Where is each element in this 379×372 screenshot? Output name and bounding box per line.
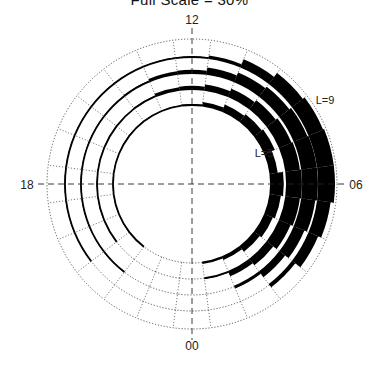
ring-segment-empty: [150, 287, 178, 294]
ring-segment-solid: [114, 194, 119, 214]
ring-segment-empty: [156, 272, 180, 278]
hour-label-bottom: 00: [185, 339, 199, 353]
ring-segment-empty: [178, 294, 207, 295]
ring-segment-solid: [91, 83, 114, 106]
polar-chart: 12 06 00 18 L=5 L=9: [0, 0, 379, 372]
ring-segment-solid: [97, 172, 98, 197]
ring-segment-empty: [124, 272, 149, 286]
ring-segment-solid: [134, 96, 155, 108]
ring-segment-solid: [75, 107, 92, 136]
ring-segment-solid: [162, 106, 182, 111]
ring-segment-solid: [89, 226, 103, 251]
data-bar: [250, 242, 273, 265]
ring-segment-solid: [98, 148, 104, 172]
sector-divider: [173, 262, 182, 327]
sector-divider: [137, 257, 162, 318]
ring-segment-empty: [143, 301, 175, 310]
ring-segment-solid: [119, 136, 129, 154]
ring-segment-empty: [91, 261, 114, 284]
ring-segment-empty: [209, 301, 241, 310]
data-bar: [228, 259, 252, 276]
ring-segment-solid: [82, 198, 89, 226]
ring-segment-solid: [119, 214, 129, 232]
ring-segment-solid: [286, 172, 287, 197]
ring-segment-solid: [175, 57, 208, 58]
ring-segment-solid: [75, 233, 92, 262]
ring-segment-solid: [114, 154, 119, 174]
ring-segment-empty: [162, 257, 182, 262]
sector-divider: [58, 129, 119, 154]
ring-segment-solid: [104, 220, 116, 241]
ring-segment-solid: [143, 58, 175, 67]
hour-label-right: 06: [349, 178, 363, 192]
ring-label-l9: L=9: [316, 94, 335, 106]
ring-segment-solid: [104, 126, 116, 147]
ring-segment-solid: [66, 135, 75, 167]
hour-label-left: 18: [20, 178, 34, 192]
ring-segment-solid: [115, 67, 144, 84]
ring-segment-solid: [82, 142, 89, 170]
ring-segment-solid: [104, 96, 124, 116]
ring-segment-solid: [129, 232, 144, 247]
ring-segment-solid: [129, 121, 144, 136]
ring-segment-solid: [66, 201, 75, 233]
hour-label-top: 12: [185, 13, 199, 27]
ring-segment-empty: [115, 285, 144, 302]
axis-lines: [38, 28, 346, 340]
sector-divider: [58, 214, 119, 239]
ring-segment-solid: [234, 272, 259, 286]
ring-segment-solid: [204, 272, 228, 278]
sector-divider: [202, 262, 211, 327]
ring-segment-solid: [98, 196, 104, 220]
ring-segment-solid: [104, 252, 124, 272]
ring-segment-empty: [144, 247, 162, 257]
ring-segment-solid: [65, 167, 66, 200]
data-bar: [222, 247, 242, 260]
ring-segment-solid: [182, 105, 203, 106]
ring-segment-solid: [89, 116, 103, 141]
ring-segment-empty: [241, 285, 270, 302]
ring-segment-empty: [117, 242, 135, 260]
ring-segment-solid: [124, 81, 149, 95]
ring-segment-empty: [206, 287, 234, 294]
ring-segment-solid: [117, 109, 135, 127]
ring-segment-empty: [134, 259, 155, 271]
ring-label-l5: L=5: [255, 147, 274, 159]
data-bar: [240, 232, 260, 252]
ring-segment-solid: [144, 111, 162, 121]
